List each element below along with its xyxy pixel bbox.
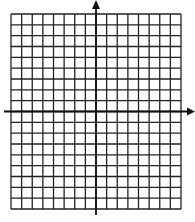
y-axis-arrow-icon — [92, 0, 100, 9]
x-axis-arrow-icon — [187, 108, 195, 116]
coordinate-plane — [0, 0, 195, 222]
